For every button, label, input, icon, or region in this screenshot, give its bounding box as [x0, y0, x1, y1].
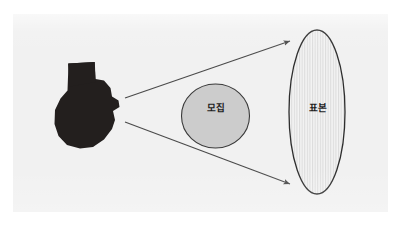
population-circle-label: 모집	[181, 103, 250, 113]
sample-ellipse-label: 표본	[290, 103, 346, 113]
diagram-figure	[0, 0, 400, 228]
diagram-canvas: 모집 표본	[0, 0, 400, 228]
dark-blob-silhouette-icon	[55, 62, 120, 149]
population-circle	[182, 84, 250, 148]
